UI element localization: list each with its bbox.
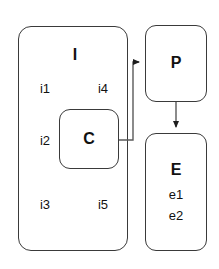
node-i-member-i4: i4	[98, 82, 108, 95]
node-p-title: P	[171, 55, 182, 71]
node-e-title: E	[171, 162, 182, 178]
node-i-member-i2: i2	[40, 134, 50, 147]
node-e-member-e2: e2	[169, 209, 183, 222]
node-i-member-i5: i5	[98, 198, 108, 211]
node-i-member-i1: i1	[40, 82, 50, 95]
node-e-member-e1: e1	[169, 188, 183, 201]
node-c-title: C	[83, 131, 95, 147]
node-i-title: I	[73, 47, 77, 63]
node-i-member-i3: i3	[40, 198, 50, 211]
diagram-canvas: I i1 i4 i2 i3 i5 C P E e1 e2	[0, 0, 219, 269]
